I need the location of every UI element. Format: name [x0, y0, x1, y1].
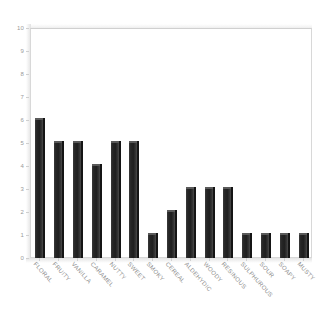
- y-axis-tick-label: 10: [0, 25, 24, 31]
- bar-chart: 012345678910 FLORALFRUITYVANILLACARAMELN…: [0, 0, 327, 323]
- bar-top-face: [223, 187, 231, 189]
- x-axis-tick-mark: [58, 258, 59, 261]
- bar-top-face: [54, 141, 62, 143]
- bar-top-face: [129, 141, 137, 143]
- x-axis-tick-mark: [39, 258, 40, 261]
- x-axis-tick-mark: [303, 258, 304, 261]
- bar-top-face: [148, 233, 156, 235]
- bar-top-face: [299, 233, 307, 235]
- y-axis-tick-mark: [26, 143, 29, 144]
- bar-side-face: [62, 141, 64, 258]
- bar-side-face: [250, 233, 252, 258]
- bar: [261, 235, 269, 258]
- x-axis-category-label: MUSTY: [296, 261, 316, 282]
- x-axis-tick-mark: [133, 258, 134, 261]
- bar: [35, 120, 43, 258]
- bar: [54, 143, 62, 258]
- y-axis-tick-label: 4: [0, 163, 24, 169]
- x-axis-category-label: SMOKY: [146, 261, 166, 282]
- bar-top-face: [35, 118, 43, 120]
- bar-top-face: [186, 187, 194, 189]
- bar-side-face: [137, 141, 139, 258]
- x-axis-category-label: SOAPY: [277, 261, 296, 282]
- bar-top-face: [242, 233, 250, 235]
- y-axis-tick-label: 9: [0, 48, 24, 54]
- bar-top-face: [280, 233, 288, 235]
- y-axis-tick-mark: [26, 212, 29, 213]
- x-axis-tick-mark: [96, 258, 97, 261]
- bar: [167, 212, 175, 258]
- y-axis-tick-mark: [26, 166, 29, 167]
- y-axis-tick-label: 0: [0, 255, 24, 261]
- y-axis-tick-label: 3: [0, 186, 24, 192]
- bar: [242, 235, 250, 258]
- x-axis-tick-mark: [246, 258, 247, 261]
- bar-side-face: [288, 233, 290, 258]
- y-axis-tick-label: 2: [0, 209, 24, 215]
- bar-top-face: [167, 210, 175, 212]
- y-axis-tick-label: 6: [0, 117, 24, 123]
- bar-top-face: [92, 164, 100, 166]
- x-axis-category-label: SOUR: [259, 261, 276, 279]
- bar: [299, 235, 307, 258]
- bar-side-face: [156, 233, 158, 258]
- x-axis-tick-mark: [284, 258, 285, 261]
- bar-side-face: [175, 210, 177, 258]
- bar-top-face: [205, 187, 213, 189]
- y-axis-tick-mark: [26, 120, 29, 121]
- y-axis-tick-label: 1: [0, 232, 24, 238]
- bar-top-face: [111, 141, 119, 143]
- x-axis-tick-mark: [77, 258, 78, 261]
- bar-side-face: [231, 187, 233, 258]
- x-axis-tick-mark: [190, 258, 191, 261]
- y-axis-tick-mark: [26, 97, 29, 98]
- x-axis-tick-mark: [152, 258, 153, 261]
- y-axis-tick-mark: [26, 74, 29, 75]
- x-axis-category-label: NUTTY: [108, 261, 127, 281]
- x-axis-tick-mark: [265, 258, 266, 261]
- y-axis-tick-mark: [26, 189, 29, 190]
- bar: [280, 235, 288, 258]
- bar: [111, 143, 119, 258]
- bar-side-face: [307, 233, 309, 258]
- bar: [223, 189, 231, 258]
- y-axis-tick-label: 5: [0, 140, 24, 146]
- x-axis-tick-mark: [115, 258, 116, 261]
- bar-side-face: [213, 187, 215, 258]
- bar-side-face: [119, 141, 121, 258]
- y-axis-tick-mark: [26, 28, 29, 29]
- bar: [148, 235, 156, 258]
- bar-side-face: [43, 118, 45, 258]
- y-axis-tick-mark: [26, 235, 29, 236]
- bar-side-face: [269, 233, 271, 258]
- bar-series: [30, 28, 312, 258]
- x-axis-category-label: FRUITY: [52, 261, 72, 282]
- bar: [92, 166, 100, 258]
- x-axis-category-label: SWEET: [127, 261, 147, 282]
- bar-top-face: [261, 233, 269, 235]
- bar-side-face: [100, 164, 102, 258]
- y-axis-tick-mark: [26, 51, 29, 52]
- x-axis: FLORALFRUITYVANILLACARAMELNUTTYSWEETSMOK…: [30, 261, 312, 323]
- x-axis-tick-mark: [171, 258, 172, 261]
- bar-side-face: [81, 141, 83, 258]
- bar: [73, 143, 81, 258]
- y-axis-tick-label: 7: [0, 94, 24, 100]
- bar: [205, 189, 213, 258]
- bar: [129, 143, 137, 258]
- x-axis-tick-mark: [227, 258, 228, 261]
- y-axis-tick-label: 8: [0, 71, 24, 77]
- bar-top-face: [73, 141, 81, 143]
- bar: [186, 189, 194, 258]
- x-axis-tick-mark: [209, 258, 210, 261]
- y-axis-tick-mark: [26, 258, 29, 259]
- bar-side-face: [194, 187, 196, 258]
